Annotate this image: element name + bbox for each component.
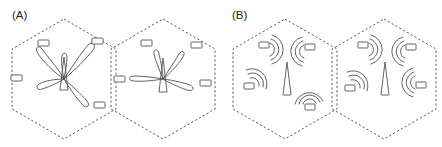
signal-wave-arc — [370, 39, 378, 60]
user-device — [259, 42, 269, 48]
user-device — [305, 104, 315, 110]
signal-wave-arc — [406, 72, 414, 93]
cell-b-right — [332, 19, 436, 139]
signal-wave-arc — [295, 41, 303, 62]
directional-beam-lobe — [36, 47, 64, 79]
user-device — [191, 42, 202, 48]
user-device — [94, 102, 105, 108]
signal-wave-arc — [402, 68, 413, 97]
user-device — [345, 85, 355, 91]
omnidirectional-node — [295, 93, 323, 110]
figure-container: (A) — [0, 0, 442, 147]
signal-wave-arc — [270, 43, 274, 56]
user-device — [92, 38, 103, 44]
user-device — [141, 40, 152, 46]
omnidirectional-node — [402, 68, 426, 97]
signal-wave-arc — [401, 45, 405, 58]
panel-b-label: (B) — [232, 9, 248, 21]
directional-beam-lobe — [64, 79, 88, 107]
user-device — [244, 83, 254, 89]
cell-a-left — [11, 19, 116, 139]
signal-wave-arc — [271, 39, 279, 60]
signal-wave-arc — [392, 37, 403, 66]
cell-a-right — [111, 19, 215, 139]
panel-b: (B) — [232, 9, 436, 139]
signal-wave-arc — [371, 35, 382, 64]
panel-a: (A) — [11, 9, 215, 139]
user-device — [406, 44, 416, 50]
directional-beam-lobe — [154, 50, 163, 79]
user-device — [305, 44, 315, 50]
signal-wave-arc — [300, 45, 304, 58]
beam-lobe-group — [36, 43, 94, 107]
user-device — [114, 76, 125, 82]
omnidirectional-node — [345, 71, 368, 91]
user-device — [358, 42, 368, 48]
base-station-antenna — [381, 62, 389, 95]
directional-beam-lobe — [163, 79, 193, 91]
signal-wave-arc — [272, 35, 283, 64]
signal-wave-arc — [396, 41, 404, 62]
directional-beam-lobe — [163, 51, 184, 79]
omnidirectional-node — [244, 69, 267, 89]
signal-wave-arc — [291, 37, 302, 66]
signal-wave-arc — [369, 43, 373, 56]
cell-b-left — [233, 19, 337, 139]
user-device — [200, 80, 211, 86]
signal-wave-arc — [411, 76, 415, 89]
panel-a-label: (A) — [12, 9, 28, 21]
omnidirectional-node — [259, 35, 283, 64]
user-device — [11, 75, 22, 81]
directional-beam-lobe — [64, 43, 94, 79]
user-device — [38, 40, 49, 46]
signal-wave-arc — [299, 95, 320, 104]
signal-wave-arc — [303, 99, 316, 104]
user-device — [416, 82, 426, 88]
omnidirectional-node — [392, 37, 416, 66]
omnidirectional-node — [291, 37, 315, 66]
figure-svg: (A) — [0, 0, 442, 147]
directional-beam-lobe — [130, 76, 164, 81]
hexagon-cell-boundary — [332, 19, 436, 139]
base-station-antenna — [283, 62, 291, 95]
omnidirectional-node — [358, 35, 382, 64]
